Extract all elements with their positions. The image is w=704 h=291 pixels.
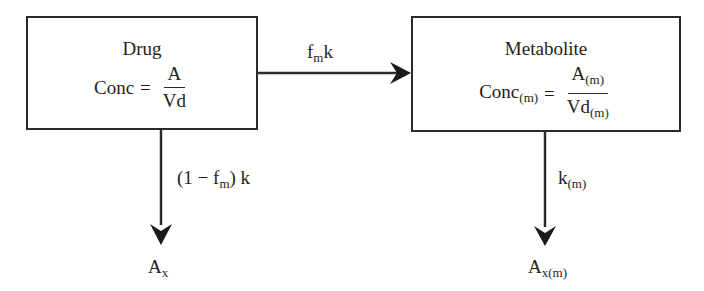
metabolite-denominator: Vd(m) bbox=[563, 94, 613, 123]
drug-elim-suffix: ) k bbox=[230, 167, 251, 188]
metabolite-conc-label: Conc(m) bbox=[479, 81, 538, 106]
drug-numerator: A bbox=[164, 64, 186, 88]
drug-fraction: A Vd bbox=[159, 64, 190, 111]
drug-elim-sub: m bbox=[219, 176, 229, 191]
metabolite-numerator-text: A bbox=[572, 63, 586, 84]
formation-k: k bbox=[323, 41, 333, 62]
metabolite-title: Metabolite bbox=[413, 38, 679, 60]
drug-conc-label: Conc bbox=[94, 77, 134, 99]
metabolite-numerator-subscript: (m) bbox=[585, 72, 604, 87]
formation-sub: m bbox=[313, 50, 323, 65]
metabolite-denominator-text: Vd bbox=[567, 96, 590, 117]
drug-denominator: Vd bbox=[159, 88, 190, 111]
metabolite-excreted-amount: Ax(m) bbox=[528, 256, 567, 281]
metabolite-conc-text: Conc bbox=[479, 81, 519, 102]
drug-title: Drug bbox=[28, 38, 256, 60]
metabolite-equals-sign: = bbox=[544, 83, 555, 105]
metabolite-conc-subscript: (m) bbox=[519, 90, 538, 105]
metabolite-denominator-subscript: (m) bbox=[590, 105, 609, 120]
drug-compartment-box: Drug Conc = A Vd bbox=[26, 16, 258, 130]
metabolite-elimination-arrowhead-icon bbox=[534, 226, 556, 246]
metabolite-elim-sub: (m) bbox=[568, 176, 587, 191]
metabolite-excreted-sub: x(m) bbox=[542, 265, 567, 280]
drug-elimination-rate-label: (1 − fm) k bbox=[177, 167, 250, 192]
metabolite-compartment-box: Metabolite Conc(m) = A(m) Vd(m) bbox=[411, 16, 681, 132]
drug-elimination-arrowhead-icon bbox=[150, 224, 172, 245]
drug-elim-prefix: (1 − f bbox=[177, 167, 219, 188]
drug-excreted-sub: x bbox=[162, 265, 169, 280]
metabolite-fraction: A(m) Vd(m) bbox=[563, 64, 613, 123]
drug-excreted-A: A bbox=[148, 256, 162, 277]
drug-concentration-equation: Conc = A Vd bbox=[28, 64, 256, 111]
metabolite-concentration-equation: Conc(m) = A(m) Vd(m) bbox=[413, 64, 679, 123]
metabolite-elim-k: k bbox=[558, 167, 568, 188]
drug-equals-sign: = bbox=[140, 77, 151, 99]
metabolite-numerator: A(m) bbox=[568, 64, 609, 94]
metabolite-excreted-A: A bbox=[528, 256, 542, 277]
formation-rate-label: fmk bbox=[307, 41, 333, 66]
metabolite-elimination-rate-label: k(m) bbox=[558, 167, 586, 192]
drug-excreted-amount: Ax bbox=[148, 256, 168, 281]
